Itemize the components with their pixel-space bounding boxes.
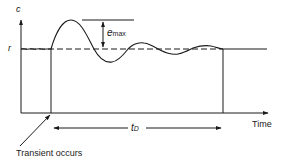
- transient-pointer-arrow: [20, 115, 50, 146]
- td-label: tD: [131, 123, 139, 133]
- reference-label: r: [8, 44, 11, 53]
- transient-response-diagram: [0, 0, 287, 166]
- x-axis-label: Time: [252, 120, 272, 129]
- transient-occurs-label: Transient occurs: [16, 149, 82, 158]
- td-subscript: D: [134, 125, 139, 132]
- emax-subscript: max: [113, 30, 126, 37]
- response-curve: [51, 20, 267, 62]
- emax-label: emax: [107, 28, 126, 38]
- pre-transient-signal: [21, 49, 51, 50]
- y-axis-label: c: [16, 5, 21, 14]
